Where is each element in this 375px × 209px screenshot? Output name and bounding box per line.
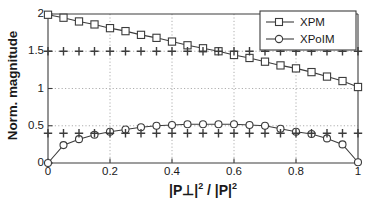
- data-point-marker: [215, 121, 222, 128]
- data-point-marker: [153, 122, 160, 129]
- data-point-marker: [45, 160, 52, 167]
- chart-plot-area: [0, 0, 375, 209]
- data-point-marker: [75, 18, 82, 25]
- data-point-marker: [168, 38, 175, 45]
- data-point-marker: [261, 58, 268, 65]
- data-point-marker: [60, 14, 67, 21]
- data-point-marker: [292, 65, 299, 72]
- data-point-marker: [137, 31, 144, 38]
- chart-figure: Norm. magnitude |P⊥|2 / |P|2 0 0.2 0.4 0…: [0, 0, 375, 209]
- data-point-marker: [308, 69, 315, 76]
- data-point-marker: [339, 77, 346, 84]
- data-point-marker: [355, 159, 362, 166]
- data-point-marker: [91, 21, 98, 28]
- data-point-marker: [231, 121, 238, 128]
- data-point-marker: [153, 34, 160, 41]
- data-point-marker: [184, 121, 191, 128]
- data-point-marker: [246, 122, 253, 129]
- data-point-marker: [169, 122, 176, 129]
- data-point-marker: [339, 141, 346, 148]
- data-point-marker: [323, 73, 330, 80]
- data-point-marker: [354, 83, 361, 90]
- data-point-marker: [262, 122, 269, 129]
- data-point-marker: [277, 62, 284, 69]
- data-point-marker: [106, 25, 113, 32]
- legend-box[interactable]: [260, 11, 356, 50]
- data-point-marker: [122, 28, 129, 35]
- data-point-marker: [44, 11, 51, 18]
- data-point-marker: [200, 121, 207, 128]
- data-point-marker: [60, 142, 67, 149]
